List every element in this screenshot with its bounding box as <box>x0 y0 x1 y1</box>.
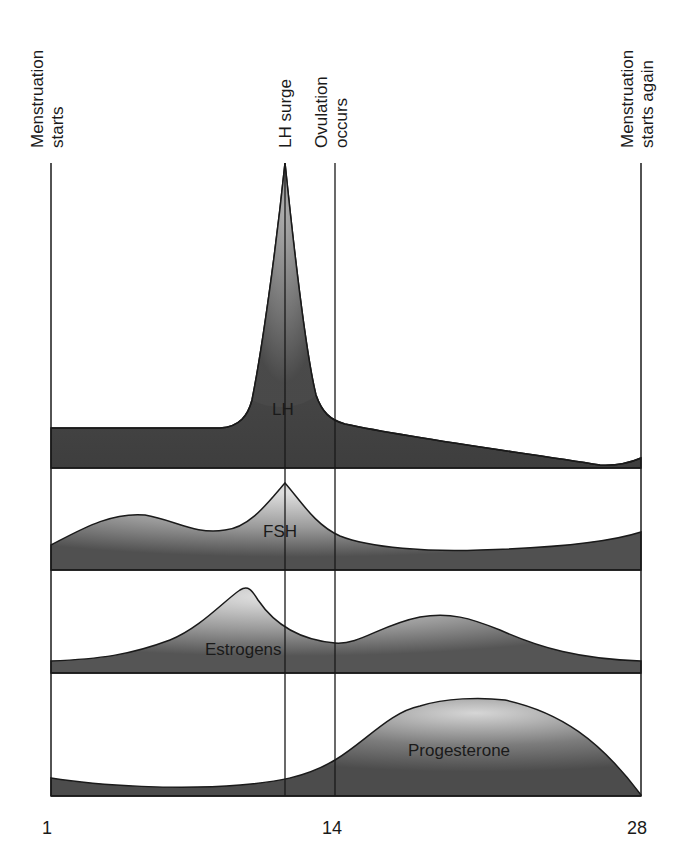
hormone-cycle-diagram: LH FSH Estrogens Progesterone Menstruati… <box>0 0 682 852</box>
estrogens-curve-label: Estrogens <box>205 640 282 659</box>
lh-curve-label: LH <box>272 400 294 419</box>
svg-text:occurs: occurs <box>332 98 351 148</box>
axis-tick-day-14: 14 <box>322 818 342 838</box>
svg-text:Menstruation: Menstruation <box>618 50 637 148</box>
svg-text:Ovulation: Ovulation <box>312 76 331 148</box>
axis-tick-day-28: 28 <box>627 818 647 838</box>
svg-text:starts again: starts again <box>638 60 657 148</box>
lh-curve: LH <box>51 163 641 468</box>
progesterone-curve: Progesterone <box>51 698 641 796</box>
fsh-curve: FSH <box>51 483 641 570</box>
progesterone-curve-label: Progesterone <box>408 741 510 760</box>
marker-label-ovulation: Ovulation occurs <box>312 76 351 148</box>
marker-label-lh-surge: LH surge <box>276 79 295 148</box>
svg-text:starts: starts <box>48 106 67 148</box>
marker-label-menstruation-start: Menstruation starts <box>28 50 67 148</box>
svg-text:LH surge: LH surge <box>276 79 295 148</box>
fsh-curve-label: FSH <box>263 522 297 541</box>
svg-text:Menstruation: Menstruation <box>28 50 47 148</box>
estrogens-curve: Estrogens <box>51 588 641 673</box>
axis-tick-day-1: 1 <box>42 818 52 838</box>
marker-label-menstruation-again: Menstruation starts again <box>618 50 657 148</box>
